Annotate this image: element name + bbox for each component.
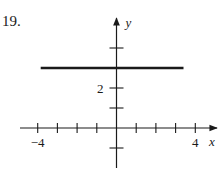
x-tick-label: −4 — [31, 135, 45, 150]
y-tick-label: 2 — [97, 81, 104, 96]
coordinate-plot: 4−42xy — [0, 0, 223, 171]
axes — [20, 18, 217, 168]
y-axis-label: y — [124, 15, 132, 30]
x-axis-label: x — [208, 134, 215, 149]
x-tick-label: 4 — [192, 135, 199, 150]
axis-labels: 4−42xy — [31, 15, 215, 150]
